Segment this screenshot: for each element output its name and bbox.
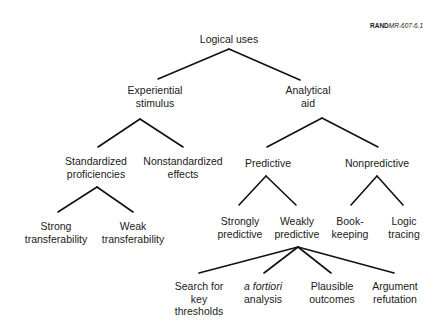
node-label: predictive <box>275 228 320 241</box>
node-label: Standardized <box>65 155 127 168</box>
edge-root-experiential <box>158 49 229 79</box>
node-label: effects <box>143 168 222 181</box>
node-label: Plausible <box>309 280 355 293</box>
node-plausible-outcomes: Plausible outcomes <box>309 280 355 305</box>
node-label: transferability <box>102 233 164 246</box>
node-label: a fortiori <box>244 280 282 293</box>
node-label: Nonstandardized <box>143 155 222 168</box>
node-weak-transferability: Weak transferability <box>102 220 164 245</box>
node-label: Experiential <box>128 84 183 97</box>
node-standardized-proficiencies: Standardized proficiencies <box>65 155 127 180</box>
node-label: key <box>175 293 223 306</box>
node-logic-tracing: Logic tracing <box>388 215 420 240</box>
node-label: Predictive <box>245 157 291 170</box>
node-label: thresholds <box>175 305 223 318</box>
edge-experiential-nonstandardized <box>140 119 183 147</box>
node-bookkeeping: Book- keeping <box>332 215 369 240</box>
edge-nonpredictive-logic <box>377 176 403 205</box>
edge-analytical-predictive <box>267 118 322 147</box>
edge-analytical-nonpredictive <box>322 118 378 147</box>
node-label: analysis <box>244 293 282 306</box>
node-label: keeping <box>332 228 369 241</box>
node-label: proficiencies <box>65 168 127 181</box>
node-label: Book- <box>332 215 369 228</box>
node-label: outcomes <box>309 293 355 306</box>
node-label: Strongly <box>218 215 263 228</box>
edge-standardized-strong <box>58 187 97 212</box>
edge-predictive-weakly <box>266 176 296 205</box>
node-experiential-stimulus: Experiential stimulus <box>128 84 183 109</box>
node-nonpredictive: Nonpredictive <box>345 157 409 170</box>
edge-weakly-argument <box>298 247 394 273</box>
node-analytical-aid: Analytical aid <box>286 84 331 109</box>
node-strong-transferability: Strong transferability <box>25 220 87 245</box>
node-label: Weak <box>102 220 164 233</box>
node-label: aid <box>286 97 331 110</box>
node-label: Analytical <box>286 84 331 97</box>
node-label: Weakly <box>275 215 320 228</box>
node-label: Search for <box>175 280 223 293</box>
node-logical-uses: Logical uses <box>200 33 258 46</box>
node-nonstandardized-effects: Nonstandardized effects <box>143 155 222 180</box>
node-weakly-predictive: Weakly predictive <box>275 215 320 240</box>
edge-experiential-standardized <box>98 119 140 147</box>
node-label: Logic <box>388 215 420 228</box>
node-label: Nonpredictive <box>345 157 409 170</box>
edge-standardized-weak <box>97 187 133 212</box>
node-label: refutation <box>372 293 418 306</box>
node-strongly-predictive: Strongly predictive <box>218 215 263 240</box>
edge-predictive-strongly <box>239 176 266 205</box>
edge-root-analytical <box>229 49 300 80</box>
node-label: predictive <box>218 228 263 241</box>
edge-weakly-search <box>199 247 298 273</box>
node-label: Logical uses <box>200 33 258 46</box>
node-label: transferability <box>25 233 87 246</box>
edge-nonpredictive-bookkeeping <box>351 176 377 205</box>
node-label: Strong <box>25 220 87 233</box>
node-label: stimulus <box>128 97 183 110</box>
node-a-fortiori-analysis: a fortiori analysis <box>244 280 282 305</box>
node-argument-refutation: Argument refutation <box>372 280 418 305</box>
node-label: tracing <box>388 228 420 241</box>
node-search-key-thresholds: Search for key thresholds <box>175 280 223 318</box>
node-predictive: Predictive <box>245 157 291 170</box>
node-label: Argument <box>372 280 418 293</box>
